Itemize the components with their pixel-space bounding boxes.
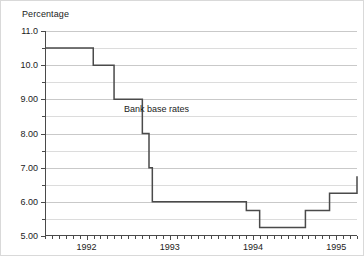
series-bank-base-rates [45,31,357,236]
x-tick-minor [232,236,233,239]
x-tick-minor [59,236,60,239]
series-annotation-label: Bank base rates [124,104,189,114]
chart-figure: Percentage 5.006.007.008.009.0010.011.0 … [0,0,364,256]
x-tick-minor [80,236,81,239]
y-tick-label: 6.00 [20,197,38,207]
y-tick-label: 9.00 [20,94,38,104]
x-tick-minor [177,236,178,239]
x-tick-minor [204,236,205,239]
x-tick-minor [142,236,143,239]
x-tick-major [87,236,88,240]
y-axis-title: Percentage [22,9,69,19]
y-tick-label: 5.00 [20,231,38,241]
series-line [45,48,357,227]
x-tick-minor [246,236,247,239]
x-tick-minor [198,236,199,239]
x-tick-minor [260,236,261,239]
x-tick-minor [52,236,53,239]
x-tick-major [253,236,254,240]
x-tick-minor [100,236,101,239]
x-tick-label: 1994 [243,242,263,252]
x-tick-minor [329,236,330,239]
x-tick-minor [128,236,129,239]
x-tick-minor [66,236,67,239]
x-tick-minor [149,236,150,239]
x-tick-minor [45,236,46,239]
x-tick-minor [343,236,344,239]
x-tick-minor [184,236,185,239]
x-tick-minor [94,236,95,239]
plot-area: 5.006.007.008.009.0010.011.0 19921993199… [45,31,357,236]
x-tick-minor [288,236,289,239]
x-tick-minor [156,236,157,239]
y-tick-label: 7.00 [20,163,38,173]
x-tick-minor [357,236,358,239]
x-tick-minor [315,236,316,239]
y-tick-label: 8.00 [20,129,38,139]
x-tick-minor [322,236,323,239]
x-tick-minor [302,236,303,239]
x-tick-minor [239,236,240,239]
x-tick-minor [295,236,296,239]
x-tick-label: 1992 [77,242,97,252]
x-tick-minor [73,236,74,239]
x-tick-minor [225,236,226,239]
x-tick-minor [308,236,309,239]
x-tick-minor [121,236,122,239]
x-tick-minor [191,236,192,239]
x-tick-minor [107,236,108,239]
x-tick-minor [350,236,351,239]
y-tick-label: 11.0 [21,26,38,36]
x-tick-minor [211,236,212,239]
x-tick-minor [114,236,115,239]
x-tick-minor [163,236,164,239]
x-tick-label: 1993 [160,242,180,252]
x-tick-major [170,236,171,240]
x-tick-minor [281,236,282,239]
y-tick-label: 10.0 [20,60,38,70]
x-tick-minor [135,236,136,239]
x-tick-minor [274,236,275,239]
x-tick-minor [267,236,268,239]
x-tick-minor [218,236,219,239]
x-tick-major [336,236,337,240]
x-tick-label: 1995 [326,242,346,252]
